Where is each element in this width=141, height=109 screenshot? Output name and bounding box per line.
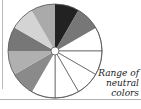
label-line-3: colors: [89, 88, 139, 98]
neutral-colors-label: Range of neutral colors: [89, 68, 139, 98]
label-line-1: Range of: [89, 68, 139, 78]
label-line-2: neutral: [89, 78, 139, 88]
frame-bottom-border: [0, 99, 141, 100]
wheel-center-hub: [51, 47, 59, 55]
